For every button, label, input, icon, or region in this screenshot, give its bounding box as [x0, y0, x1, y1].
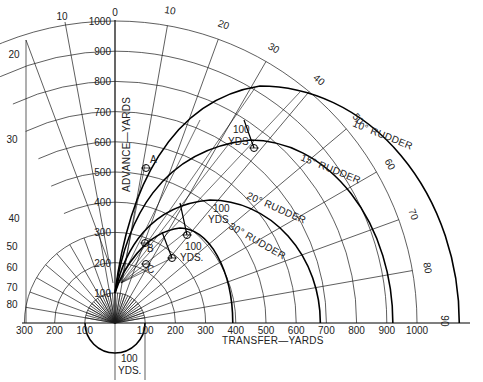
transfer-tick-label: 900: [378, 325, 395, 336]
radial-line-right: [115, 61, 266, 323]
annotation-100-mid: 100: [213, 203, 230, 214]
transfer-tick-label: 1000: [406, 325, 429, 336]
bearing-label-right: 30: [266, 40, 282, 55]
transfer-tick-label: 800: [348, 325, 365, 336]
bearing-label-left: 10: [56, 11, 68, 22]
annotation-100-top: 100: [233, 124, 250, 135]
bearing-label-right: 60: [382, 157, 397, 173]
track-line: [121, 232, 186, 283]
advance-tick-label: 200: [94, 258, 111, 269]
bearing-label-left: 30: [6, 134, 18, 145]
point-label-a: A: [150, 154, 157, 165]
bearing-label-right: 10: [164, 4, 177, 17]
advance-axis-label: ADVANCE—YARDS: [121, 97, 132, 192]
bearing-label-left: 80: [6, 299, 18, 310]
turning-circle-diagram: 1002003004005006007008009001000100200300…: [0, 0, 483, 382]
bearing-label-right: 80: [421, 261, 434, 274]
rudder-curve-10: [115, 86, 459, 323]
transfer-tick-label-left: 100: [76, 325, 93, 336]
rudder-label-15: 15° RUDDER: [299, 152, 362, 186]
bearing-label-right: 0: [112, 7, 118, 18]
radial-line-right: [115, 271, 412, 323]
advance-tick-label: 800: [94, 76, 111, 87]
annotation-yds-top: YDS: [228, 136, 249, 147]
advance-tick-label: 300: [94, 227, 111, 238]
transfer-axis-label: TRANSFER—YARDS: [222, 335, 324, 346]
radial-line-upper-10: [65, 22, 113, 283]
bearing-label-right: 40: [311, 72, 327, 88]
bearing-label-right: 20: [217, 18, 232, 32]
point-label-b: B: [147, 243, 154, 254]
bearing-label-left: 60: [6, 262, 18, 273]
advance-tick-label: 600: [94, 137, 111, 148]
bearing-label-right: 90: [439, 315, 450, 327]
annotation-yds-low: YDS.: [180, 252, 203, 263]
bearing-label-left: 20: [8, 49, 20, 60]
annotation-yds-mid: YDS: [208, 214, 229, 225]
transfer-tick-label: 300: [197, 325, 214, 336]
advance-tick-label: 100: [94, 288, 111, 299]
bearing-label-left: 40: [8, 213, 20, 224]
scale-yds: YDS.: [118, 365, 141, 376]
annotation-100-low: 100: [185, 241, 202, 252]
advance-tick-label: 500: [94, 167, 111, 178]
transfer-tick-label-left: 200: [46, 325, 63, 336]
transfer-tick-label-left: 300: [16, 325, 33, 336]
scale-100: 100: [121, 353, 138, 364]
rudder-label-10: 10° RUDDER: [351, 118, 414, 152]
bearing-label-right: 70: [406, 207, 420, 222]
point-label-c: C: [147, 264, 154, 275]
advance-tick-label: 700: [94, 107, 111, 118]
advance-tick-label: 400: [94, 197, 111, 208]
yds-bracket-low: [162, 232, 172, 258]
transfer-tick-label: 200: [167, 325, 184, 336]
transfer-tick-label: 100: [137, 325, 154, 336]
advance-tick-label: 1000: [89, 16, 112, 27]
advance-tick-label: 900: [94, 46, 111, 57]
bearing-label-left: 70: [6, 282, 18, 293]
rudder-curves: [85, 86, 459, 353]
bearing-label-left: 50: [6, 241, 18, 252]
